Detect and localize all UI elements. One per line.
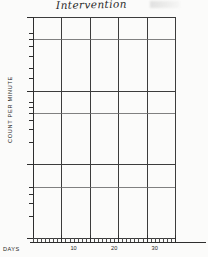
grid-line-horizontal xyxy=(33,238,175,239)
y-axis-tick xyxy=(29,187,33,188)
y-axis-tick xyxy=(29,142,33,143)
y-axis-tick xyxy=(29,68,33,69)
y-axis-tick xyxy=(29,203,33,204)
x-axis-title: DAYS xyxy=(3,246,20,252)
x-axis-tick xyxy=(138,238,139,242)
x-axis-tick xyxy=(175,235,176,242)
x-axis-tick xyxy=(45,238,46,242)
y-axis-title: COUNT PER MINUTE xyxy=(7,87,13,143)
x-axis-tick xyxy=(110,238,111,242)
x-axis-tick xyxy=(82,238,83,242)
x-axis-tick xyxy=(94,238,95,242)
x-axis-tick xyxy=(65,238,66,242)
x-axis-tick xyxy=(118,235,119,242)
y-axis-tick xyxy=(27,17,34,18)
y-axis-tick xyxy=(29,46,33,47)
x-axis-tick xyxy=(155,238,156,242)
x-axis-tick xyxy=(167,238,168,242)
x-axis-tick xyxy=(126,238,127,242)
x-axis-tick-label: 30 xyxy=(152,245,158,251)
x-axis-tick-label: 20 xyxy=(111,245,117,251)
y-axis-tick xyxy=(29,120,33,121)
y-axis-tick xyxy=(29,56,33,57)
x-axis-tick xyxy=(102,238,103,242)
y-axis-tick xyxy=(27,164,34,165)
y-axis-tick xyxy=(29,102,33,103)
x-axis-tick xyxy=(33,238,34,242)
x-axis xyxy=(30,242,206,243)
x-axis-tick xyxy=(106,238,107,242)
x-axis-tick xyxy=(61,235,62,242)
y-axis-tick xyxy=(29,113,33,114)
x-axis-tick xyxy=(53,238,54,242)
y-axis-tick xyxy=(29,33,33,34)
y-axis-tick xyxy=(29,129,33,130)
x-axis-tick xyxy=(74,238,75,242)
intervention-annotation: Intervention xyxy=(56,0,127,11)
grid-line-vertical xyxy=(175,17,176,238)
x-axis-tick xyxy=(163,238,164,242)
y-axis-tick-labels: 100605040302015107654321.5.4.3.2.10 xyxy=(0,0,31,257)
x-axis-tick xyxy=(134,238,135,242)
x-axis-tick xyxy=(130,238,131,242)
x-axis-tick xyxy=(151,238,152,242)
x-axis-tick xyxy=(41,238,42,242)
x-axis-tick xyxy=(98,238,99,242)
x-axis-tick xyxy=(90,235,91,242)
x-axis-tick xyxy=(122,238,123,242)
x-axis-tick xyxy=(37,238,38,242)
x-axis-tick xyxy=(143,238,144,242)
x-axis-tick xyxy=(78,238,79,242)
celeration-chart: Intervention 100605040302015107654321.5.… xyxy=(0,0,208,257)
x-axis-tick xyxy=(70,238,71,242)
data-series-layer xyxy=(33,17,175,238)
x-axis-tick xyxy=(114,238,115,242)
x-axis-tick xyxy=(159,238,160,242)
y-axis-tick xyxy=(29,39,33,40)
x-axis-tick xyxy=(49,238,50,242)
y-axis-tick xyxy=(29,107,33,108)
x-axis-tick-label: 10 xyxy=(70,245,76,251)
x-axis-tick xyxy=(171,238,172,242)
y-axis-tick xyxy=(27,91,34,92)
paper-smudge xyxy=(150,1,180,8)
x-axis-tick xyxy=(147,235,148,242)
x-axis-tick xyxy=(57,238,58,242)
x-axis-tick xyxy=(86,238,87,242)
y-axis-tick xyxy=(29,78,33,79)
y-axis-tick xyxy=(29,216,33,217)
y-axis-tick xyxy=(29,194,33,195)
